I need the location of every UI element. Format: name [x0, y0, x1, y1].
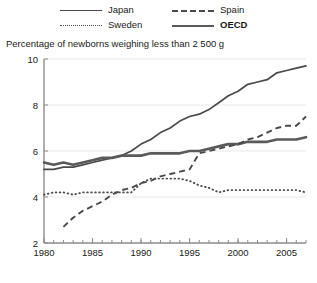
y-tick-label: 10 — [27, 54, 38, 65]
legend-item-japan[interactable]: Japan — [60, 2, 172, 17]
x-tick-label: 1995 — [179, 247, 200, 258]
chart-legend: Japan Spain Sweden OECD — [60, 2, 293, 32]
legend-item-oecd[interactable]: OECD — [172, 17, 293, 32]
series-line-spain — [63, 117, 306, 227]
chart-figure: Japan Spain Sweden OECD Percentage of ne… — [0, 0, 317, 283]
legend-label-spain: Spain — [220, 5, 244, 15]
line-thick-icon — [172, 20, 214, 30]
y-axis-tick-labels: 246810 — [27, 54, 38, 249]
y-tick-label: 4 — [33, 192, 38, 203]
plot-area: 246810 198019851990199520002005 — [0, 50, 317, 265]
line-dotted-icon — [60, 20, 102, 30]
legend-label-japan: Japan — [108, 5, 134, 15]
legend-label-sweden: Sweden — [108, 20, 142, 30]
x-tick-label: 1980 — [33, 247, 54, 258]
legend-item-sweden[interactable]: Sweden — [60, 17, 172, 32]
y-tick-label: 8 — [33, 100, 38, 111]
x-tick-label: 2005 — [276, 247, 297, 258]
x-tick-label: 1990 — [130, 247, 151, 258]
x-tick-label: 2000 — [228, 247, 249, 258]
x-axis-major-ticks — [44, 238, 287, 243]
legend-item-spain[interactable]: Spain — [172, 2, 293, 17]
y-tick-label: 6 — [33, 146, 38, 157]
line-dashed-icon — [172, 5, 214, 15]
x-axis-tick-labels: 198019851990199520002005 — [33, 247, 297, 258]
chart-title: Percentage of newborns weighing less tha… — [6, 38, 224, 49]
x-tick-label: 1985 — [82, 247, 103, 258]
legend-label-oecd: OECD — [220, 20, 247, 30]
series-line-sweden — [44, 179, 306, 195]
line-solid-icon — [60, 5, 102, 15]
chart-svg: 246810 198019851990199520002005 — [0, 50, 317, 265]
